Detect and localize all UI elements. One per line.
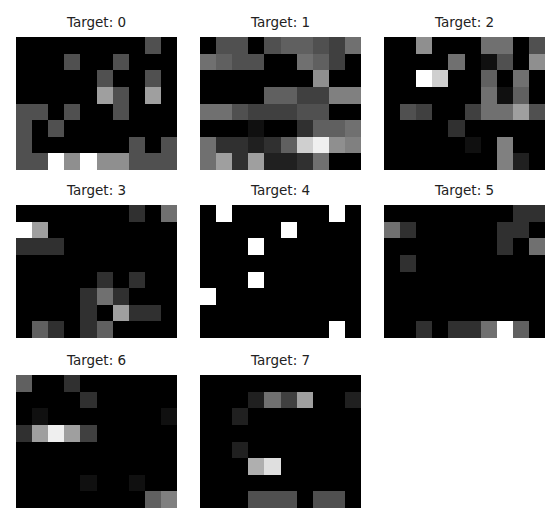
heatmap-cell: [32, 408, 48, 425]
heatmap-cell: [297, 37, 313, 54]
heatmap-cell: [313, 272, 329, 289]
heatmap-cell: [497, 54, 513, 71]
heatmap-cell: [432, 70, 448, 87]
heatmap-cell: [200, 442, 216, 459]
heatmap-cell: [113, 70, 129, 87]
heatmap-cell: [80, 54, 96, 71]
heatmap-cell: [32, 392, 48, 409]
heatmap-cell: [400, 87, 416, 104]
heatmap-cell: [145, 408, 161, 425]
heatmap-cell: [200, 288, 216, 305]
heatmap-cell: [513, 153, 529, 170]
heatmap-cell: [329, 153, 345, 170]
heatmap-cell: [313, 425, 329, 442]
heatmap-cell: [281, 475, 297, 492]
heatmap-cell: [80, 491, 96, 508]
heatmap-grid: [200, 205, 361, 338]
heatmap-cell: [248, 120, 264, 137]
heatmap-cell: [80, 475, 96, 492]
heatmap-grid: [384, 37, 545, 170]
heatmap-cell: [465, 87, 481, 104]
heatmap-cell: [16, 375, 32, 392]
heatmap-cell: [248, 321, 264, 338]
heatmap-cell: [97, 104, 113, 121]
heatmap-cell: [129, 321, 145, 338]
heatmap-cell: [32, 272, 48, 289]
heatmap-cell: [297, 54, 313, 71]
heatmap-cell: [400, 205, 416, 222]
heatmap-cell: [513, 272, 529, 289]
heatmap-cell: [216, 392, 232, 409]
heatmap-cell: [465, 238, 481, 255]
heatmap-cell: [145, 425, 161, 442]
heatmap-cell: [384, 222, 400, 239]
heatmap-cell: [248, 442, 264, 459]
heatmap-cell: [216, 288, 232, 305]
heatmap-cell: [32, 137, 48, 154]
heatmap-cell: [161, 375, 177, 392]
panel-title: Target: 5: [384, 182, 545, 198]
heatmap-cell: [432, 288, 448, 305]
heatmap-cell: [384, 205, 400, 222]
heatmap-cell: [448, 104, 464, 121]
heatmap-cell: [297, 153, 313, 170]
heatmap-cell: [16, 137, 32, 154]
heatmap-cell: [264, 442, 280, 459]
heatmap-cell: [32, 37, 48, 54]
heatmap-cell: [97, 87, 113, 104]
heatmap-cell: [481, 205, 497, 222]
heatmap-cell: [297, 137, 313, 154]
heatmap-cell: [113, 104, 129, 121]
heatmap-cell: [80, 87, 96, 104]
heatmap-cell: [48, 392, 64, 409]
heatmap-cell: [264, 475, 280, 492]
heatmap-cell: [529, 222, 545, 239]
heatmap-cell: [465, 153, 481, 170]
heatmap-cell: [216, 375, 232, 392]
heatmap-cell: [97, 238, 113, 255]
heatmap-cell: [232, 70, 248, 87]
heatmap-cell: [497, 238, 513, 255]
heatmap-cell: [345, 104, 361, 121]
heatmap-cell: [113, 238, 129, 255]
heatmap-cell: [497, 272, 513, 289]
heatmap-cell: [80, 458, 96, 475]
heatmap-cell: [497, 120, 513, 137]
heatmap-cell: [313, 392, 329, 409]
heatmap-cell: [80, 272, 96, 289]
heatmap-grid: [200, 37, 361, 170]
heatmap-cell: [248, 305, 264, 322]
heatmap-cell: [113, 442, 129, 459]
heatmap-cell: [97, 37, 113, 54]
heatmap-cell: [297, 70, 313, 87]
heatmap-cell: [345, 288, 361, 305]
heatmap-cell: [297, 205, 313, 222]
heatmap-cell: [497, 255, 513, 272]
heatmap-cell: [465, 255, 481, 272]
heatmap-cell: [281, 305, 297, 322]
heatmap-cell: [432, 222, 448, 239]
heatmap-cell: [97, 54, 113, 71]
heatmap-cell: [297, 491, 313, 508]
heatmap-cell: [97, 255, 113, 272]
heatmap-cell: [400, 54, 416, 71]
heatmap-cell: [513, 305, 529, 322]
heatmap-cell: [16, 491, 32, 508]
heatmap-cell: [129, 442, 145, 459]
heatmap-cell: [281, 137, 297, 154]
heatmap-cell: [497, 104, 513, 121]
heatmap-cell: [481, 54, 497, 71]
heatmap-cell: [113, 87, 129, 104]
heatmap-cell: [313, 37, 329, 54]
heatmap-cell: [64, 408, 80, 425]
heatmap-cell: [145, 272, 161, 289]
heatmap-cell: [264, 321, 280, 338]
heatmap-cell: [384, 305, 400, 322]
heatmap-cell: [113, 288, 129, 305]
heatmap-cell: [97, 153, 113, 170]
heatmap-cell: [32, 442, 48, 459]
heatmap-cell: [384, 70, 400, 87]
heatmap-cell: [97, 272, 113, 289]
heatmap-cell: [345, 425, 361, 442]
heatmap-cell: [113, 137, 129, 154]
